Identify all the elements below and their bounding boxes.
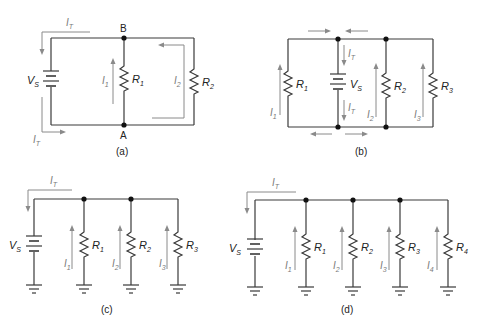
resistor-label-r3: R3 xyxy=(186,239,198,253)
current-arrow-i3 xyxy=(165,225,170,269)
resistor-label-r1: R1 xyxy=(314,241,326,255)
caption-c: (c) xyxy=(101,304,113,315)
current-label-i3: I3 xyxy=(159,258,166,271)
current-arrow-bottom-left xyxy=(310,132,332,137)
ground-icon xyxy=(392,287,408,295)
circuit-wires-a xyxy=(51,38,194,125)
node xyxy=(81,196,86,201)
caption-b: (b) xyxy=(355,146,367,157)
battery-icon xyxy=(26,236,42,251)
current-arrow-it-top xyxy=(40,32,91,55)
node xyxy=(335,36,340,41)
current-label-i3: I3 xyxy=(380,260,387,273)
current-arrow-i2 xyxy=(374,63,379,117)
node-a xyxy=(121,122,126,127)
current-arrow-it xyxy=(245,192,297,214)
current-arrow-i4 xyxy=(435,226,440,270)
panel-d: VS R1 R2 R3 R4 IT I1 I2 I3 xyxy=(229,177,468,315)
resistor-label-r2: R2 xyxy=(139,239,151,253)
current-label-i2: I2 xyxy=(174,75,181,88)
current-label-i1: I1 xyxy=(64,258,71,271)
battery-icon xyxy=(247,239,263,254)
ground-icon xyxy=(440,287,456,295)
current-arrow-it-bottom xyxy=(42,97,66,135)
current-label-i3: I3 xyxy=(414,109,421,122)
current-arrow-i1 xyxy=(70,225,75,269)
resistor-label-r3: R3 xyxy=(408,241,420,255)
resistor-r1-icon xyxy=(302,232,310,261)
current-arrow-it-lower xyxy=(342,100,347,121)
resistor-r2-icon xyxy=(349,232,357,261)
panel-c: VS R1 R2 R3 IT I1 I2 I3 (c) xyxy=(9,175,198,315)
current-arrow-i1 xyxy=(111,58,116,104)
ground-icon xyxy=(345,287,361,295)
resistor-r2-icon xyxy=(382,71,390,100)
resistor-label-r1: R1 xyxy=(92,239,104,253)
resistor-r1-icon xyxy=(80,230,88,259)
resistor-r1-icon xyxy=(120,64,128,93)
resistor-label-r2: R2 xyxy=(361,241,373,255)
ground-icon xyxy=(170,285,186,293)
node-label-b: B xyxy=(120,23,127,34)
resistor-r4-icon xyxy=(444,232,452,261)
circuit-wires-b xyxy=(288,39,433,127)
current-label-i1: I1 xyxy=(102,75,109,88)
ground-icon xyxy=(26,285,42,293)
ground-icon xyxy=(123,285,139,293)
panel-b: R1 VS R2 R3 IT IT xyxy=(270,29,453,158)
current-label-i1: I1 xyxy=(285,260,292,273)
current-label-i2: I2 xyxy=(333,260,340,273)
resistor-r3-icon xyxy=(429,71,437,100)
source-label-vs: VS xyxy=(9,239,21,253)
current-label-i1: I1 xyxy=(270,107,277,120)
node xyxy=(303,197,308,202)
resistor-label-r2: R2 xyxy=(202,76,214,90)
current-arrow-i3 xyxy=(387,226,392,270)
resistor-label-r3: R3 xyxy=(441,80,453,94)
resistor-label-r1: R1 xyxy=(296,78,308,92)
ground-icon xyxy=(247,287,263,295)
battery-icon xyxy=(330,74,346,89)
resistor-r3-icon xyxy=(174,230,182,259)
node xyxy=(397,197,402,202)
source-label-vs: VS xyxy=(229,242,241,256)
current-arrow-i1 xyxy=(278,64,283,115)
current-arrow-it-upper xyxy=(342,45,347,66)
current-label-it-lower: IT xyxy=(348,102,356,115)
node xyxy=(128,196,133,201)
current-label-i2: I2 xyxy=(367,109,374,122)
current-label-i2: I2 xyxy=(112,258,119,271)
current-arrow-top-left xyxy=(345,29,368,34)
current-label-it-top: IT xyxy=(66,17,74,30)
source-label-vs: VS xyxy=(350,78,362,92)
resistor-label-r1: R1 xyxy=(132,73,144,87)
node xyxy=(350,197,355,202)
resistor-r1-icon xyxy=(284,69,292,98)
parallel-circuits-figure: VS R1 R2 B A IT IT I1 I2 xyxy=(0,0,481,329)
panel-a: VS R1 R2 B A IT IT I1 I2 xyxy=(27,17,214,157)
node xyxy=(383,124,388,129)
node xyxy=(383,36,388,41)
current-label-it: IT xyxy=(272,177,280,190)
current-label-it-upper: IT xyxy=(348,48,356,61)
current-arrow-i1 xyxy=(293,226,298,270)
current-arrow-i2 xyxy=(118,225,123,269)
node-b xyxy=(121,35,126,40)
resistor-label-r4: R4 xyxy=(456,241,468,255)
node-label-a: A xyxy=(120,130,127,141)
resistor-r3-icon xyxy=(396,232,404,261)
ground-icon xyxy=(76,285,92,293)
current-label-it: IT xyxy=(50,175,58,188)
resistor-r2-icon xyxy=(127,230,135,259)
current-label-it-bottom: IT xyxy=(33,134,41,147)
resistor-label-r2: R2 xyxy=(394,80,406,94)
current-arrow-i3 xyxy=(421,63,426,117)
circuit-wires-c xyxy=(34,199,178,285)
source-label-vs: VS xyxy=(27,74,39,88)
ground-icon xyxy=(298,287,314,295)
node xyxy=(335,124,340,129)
caption-a: (a) xyxy=(116,146,128,157)
current-label-i4: I4 xyxy=(427,260,434,273)
caption-d: (d) xyxy=(341,304,353,315)
current-arrow-it xyxy=(26,190,73,212)
